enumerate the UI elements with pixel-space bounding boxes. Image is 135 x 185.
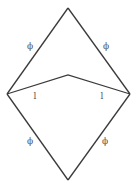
edge-bottom-right — [68, 94, 130, 180]
label-inner-right: l — [101, 91, 104, 101]
label-inner-left: l — [34, 91, 37, 101]
edge-top-right — [68, 8, 130, 94]
diagram-canvas: ϕ ϕ ϕ ϕ l l — [0, 0, 135, 185]
label-bottom-right: ϕ — [102, 136, 108, 146]
label-top-right: ϕ — [103, 41, 109, 51]
edge-bottom-left — [7, 94, 68, 180]
edge-inner-bent — [7, 75, 130, 94]
label-top-left: ϕ — [27, 41, 33, 51]
edge-top-left — [7, 8, 68, 94]
label-bottom-left: ϕ — [27, 136, 33, 146]
